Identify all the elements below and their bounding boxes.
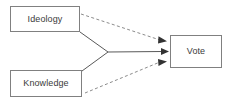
diagram-canvas: Ideology Knowledge Vote [0,0,235,105]
arrowhead-solid-to-vote [161,48,169,55]
node-knowledge[interactable]: Knowledge [10,70,82,97]
arrowhead-ideology-dashed-to-vote [158,36,167,43]
node-ideology[interactable]: Ideology [10,6,80,32]
node-vote-label: Vote [187,47,205,56]
edge-junction-to-vote [108,52,162,53]
node-vote[interactable]: Vote [170,35,222,68]
node-knowledge-label: Knowledge [23,79,68,88]
arrowhead-knowledge-dashed-to-vote [158,59,167,66]
node-ideology-label: Ideology [28,15,63,24]
edge-knowledge-to-junction [82,52,108,71]
edge-ideology-dashed-to-vote [81,14,160,40]
edge-knowledge-dashed-to-vote [85,62,160,93]
edge-ideology-to-junction [80,32,108,52]
